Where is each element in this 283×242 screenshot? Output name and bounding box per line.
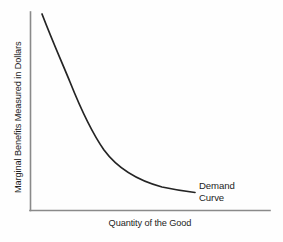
x-axis-label: Quantity of the Good	[109, 218, 192, 228]
demand-curve-figure: Marginal Benefits Measured in Dollars Qu…	[0, 0, 283, 242]
demand-curve-annotation-line1: Demand	[199, 180, 235, 191]
chart-canvas: Marginal Benefits Measured in Dollars Qu…	[0, 0, 283, 242]
y-axis-label: Marginal Benefits Measured in Dollars	[13, 41, 23, 193]
demand-curve	[42, 14, 195, 193]
demand-curve-annotation-line2: Curve	[199, 192, 224, 203]
